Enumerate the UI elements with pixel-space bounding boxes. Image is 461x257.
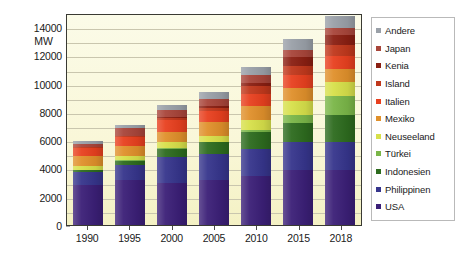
bar-segment xyxy=(283,142,313,170)
bar-segment xyxy=(283,123,313,142)
legend-color-swatch-icon xyxy=(376,151,381,156)
x-axis-tick-label: 1995 xyxy=(114,232,144,244)
bar-segment xyxy=(157,149,187,157)
x-axis-tick-mark xyxy=(256,226,257,230)
x-axis-tick-mark xyxy=(341,226,342,230)
legend-color-swatch-icon xyxy=(376,187,381,192)
bar-stack xyxy=(241,15,271,225)
bar-segment xyxy=(325,115,355,143)
plot-area xyxy=(66,14,362,226)
x-axis-tick-mark xyxy=(214,226,215,230)
x-axis-tick-label: 2005 xyxy=(199,232,229,244)
bar-segment xyxy=(115,180,145,225)
legend-item-label: Andere xyxy=(385,25,415,36)
bar-segment xyxy=(241,94,271,106)
x-axis-tick-labels: 1990199520002005201020152018 xyxy=(66,232,362,244)
x-axis: 1990199520002005201020152018 xyxy=(66,226,362,252)
bar-segment xyxy=(199,122,229,135)
chart-legend: AndereJapanKeniaIslandItalienMexikoNeuse… xyxy=(371,17,455,221)
bar-segment xyxy=(241,132,271,149)
bar-segment xyxy=(283,75,313,88)
x-axis-tick-mark xyxy=(172,226,173,230)
y-axis-tick-label: 0 xyxy=(56,220,62,232)
legend-item[interactable]: Türkei xyxy=(376,145,451,163)
bar-segment xyxy=(241,75,271,83)
bar-stack xyxy=(199,15,229,225)
x-axis-tick-label: 2010 xyxy=(241,232,271,244)
bar-segment xyxy=(325,82,355,96)
bar-segment xyxy=(241,176,271,225)
legend-item[interactable]: Kenia xyxy=(376,57,451,75)
legend-color-swatch-icon xyxy=(376,169,381,174)
bar-segment xyxy=(325,96,355,114)
bar-segment xyxy=(73,156,103,166)
bar-segment xyxy=(283,50,313,57)
bar-segment xyxy=(199,92,229,99)
x-axis-tick-label: 2000 xyxy=(157,232,187,244)
legend-item[interactable]: Andere xyxy=(376,22,451,40)
legend-color-swatch-icon xyxy=(376,134,381,139)
bar-stack xyxy=(325,15,355,225)
bar-segment xyxy=(157,157,187,183)
bar-stack xyxy=(73,15,103,225)
legend-color-swatch-icon xyxy=(376,46,381,51)
x-axis-tick-mark xyxy=(87,226,88,230)
bar-segment xyxy=(283,115,313,123)
legend-item[interactable]: USA xyxy=(376,198,451,216)
bar-segment xyxy=(241,120,271,131)
legend-item[interactable]: Italien xyxy=(376,92,451,110)
legend-item[interactable]: Island xyxy=(376,75,451,93)
bar-segment xyxy=(157,132,187,143)
bar-segment xyxy=(325,170,355,225)
x-axis-tick-mark xyxy=(299,226,300,230)
x-axis-tick-label: 2015 xyxy=(284,232,314,244)
legend-color-swatch-icon xyxy=(376,28,381,33)
y-axis-tick-label: 6000 xyxy=(39,135,62,147)
bar-segment xyxy=(157,110,187,117)
bar-segment xyxy=(73,172,103,185)
bar-series-group xyxy=(67,15,361,225)
bar-segment xyxy=(325,16,355,28)
legend-item[interactable]: Philippinen xyxy=(376,180,451,198)
legend-item-label: Island xyxy=(385,78,410,89)
y-axis-tick-label: 2000 xyxy=(39,192,62,204)
bar-segment xyxy=(115,146,145,157)
legend-item[interactable]: Mexiko xyxy=(376,110,451,128)
bar-segment xyxy=(157,120,187,131)
bar-stack xyxy=(157,15,187,225)
legend-item-label: Neuseeland xyxy=(385,131,435,142)
y-axis-tick-label: 14000 xyxy=(34,22,62,34)
bar-stack xyxy=(283,15,313,225)
legend-item[interactable]: Japan xyxy=(376,40,451,58)
legend-item-label: Türkei xyxy=(385,148,411,159)
bar-segment xyxy=(241,106,271,120)
bar-segment xyxy=(325,56,355,69)
bar-segment xyxy=(199,111,229,122)
bar-segment xyxy=(283,101,313,114)
bar-segment xyxy=(325,35,355,45)
bar-segment xyxy=(241,67,271,75)
legend-item[interactable]: Neuseeland xyxy=(376,128,451,146)
bar-segment xyxy=(325,142,355,170)
bar-segment xyxy=(283,170,313,225)
legend-item-label: Italien xyxy=(385,96,410,107)
bar-segment xyxy=(199,180,229,225)
bar-segment xyxy=(325,69,355,82)
bar-segment xyxy=(73,148,103,156)
bar-segment xyxy=(115,128,145,135)
y-axis: MW 02000400060008000100001200014000 xyxy=(14,14,66,226)
y-axis-unit-label: MW xyxy=(34,35,53,47)
bar-segment xyxy=(73,185,103,225)
legend-color-swatch-icon xyxy=(376,63,381,68)
bar-segment xyxy=(283,88,313,101)
y-axis-tick-label: 4000 xyxy=(39,163,62,175)
bar-segment xyxy=(199,142,229,154)
bar-segment xyxy=(115,165,145,180)
bar-segment xyxy=(283,39,313,50)
legend-item-label: Japan xyxy=(385,43,410,54)
legend-item[interactable]: Indonesien xyxy=(376,163,451,181)
bar-segment xyxy=(283,66,313,75)
x-axis-tick-label: 1990 xyxy=(72,232,102,244)
legend-item-label: Kenia xyxy=(385,60,409,71)
legend-item-label: Mexiko xyxy=(385,113,415,124)
